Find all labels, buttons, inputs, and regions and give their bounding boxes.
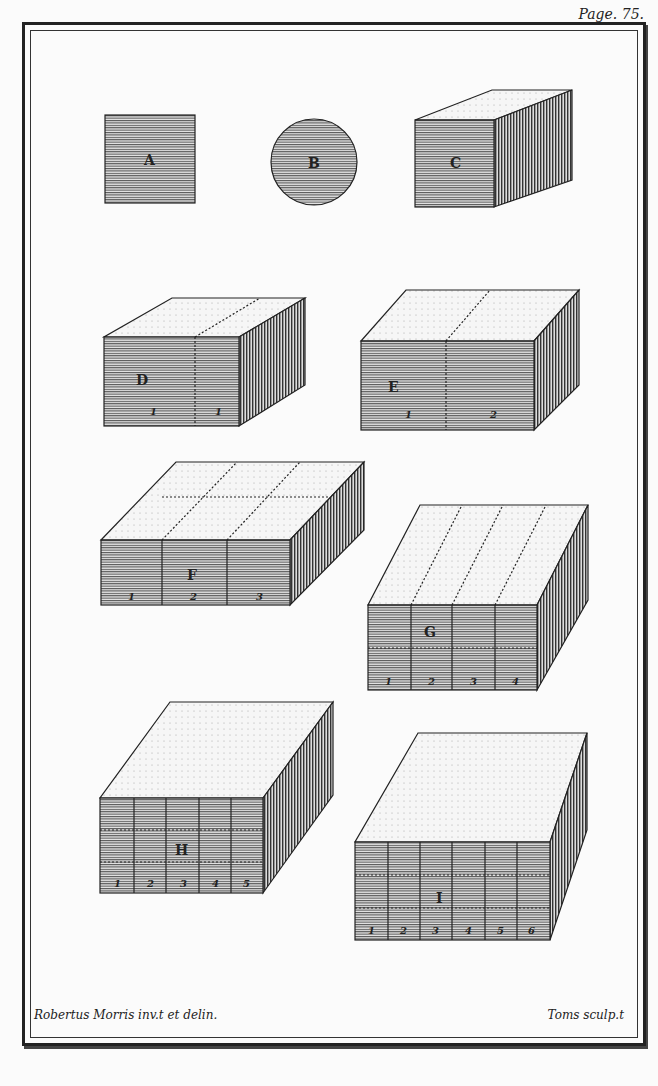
svg-text:1: 1 xyxy=(150,406,157,417)
svg-text:1: 1 xyxy=(215,406,222,417)
figure-g: G 1 2 3 4 xyxy=(368,505,588,690)
svg-text:6: 6 xyxy=(528,925,535,936)
svg-text:2: 2 xyxy=(399,925,407,936)
figure-f: F 1 2 3 xyxy=(101,462,364,605)
svg-text:2: 2 xyxy=(427,676,435,687)
svg-text:A: A xyxy=(143,152,156,168)
svg-text:5: 5 xyxy=(243,878,250,889)
svg-text:2: 2 xyxy=(189,591,197,602)
svg-text:4: 4 xyxy=(212,878,219,889)
figure-h: H 1 2 3 4 5 xyxy=(100,702,333,893)
svg-text:1: 1 xyxy=(385,676,392,687)
svg-text:F: F xyxy=(187,567,197,583)
svg-text:B: B xyxy=(308,155,320,171)
svg-text:2: 2 xyxy=(489,409,497,420)
svg-text:C: C xyxy=(450,155,461,171)
figure-i: I 1 2 3 4 5 6 xyxy=(355,733,587,940)
svg-text:4: 4 xyxy=(512,676,519,687)
figure-a: A xyxy=(105,115,195,203)
svg-text:1: 1 xyxy=(128,591,135,602)
svg-text:H: H xyxy=(175,842,188,858)
figure-e: E 1 2 xyxy=(361,290,579,430)
credit-designer: Robertus Morris inv.t et delin. xyxy=(34,1008,217,1022)
figure-c: C xyxy=(415,90,572,207)
figure-d: D 1 1 xyxy=(104,298,305,426)
svg-text:1: 1 xyxy=(405,409,412,420)
svg-text:3: 3 xyxy=(470,676,477,687)
plate-illustration: A B C D 1 1 xyxy=(0,0,658,1086)
svg-text:G: G xyxy=(424,624,436,640)
svg-text:4: 4 xyxy=(465,925,472,936)
svg-text:3: 3 xyxy=(256,591,263,602)
figure-b: B xyxy=(271,119,357,205)
svg-text:1: 1 xyxy=(368,925,375,936)
svg-text:1: 1 xyxy=(114,878,121,889)
svg-text:E: E xyxy=(388,379,399,395)
svg-text:3: 3 xyxy=(180,878,187,889)
svg-text:2: 2 xyxy=(146,878,154,889)
svg-text:I: I xyxy=(436,890,443,906)
svg-text:D: D xyxy=(136,372,148,388)
svg-text:5: 5 xyxy=(497,925,504,936)
svg-text:3: 3 xyxy=(432,925,439,936)
credit-engraver: Toms sculp.t xyxy=(548,1008,624,1022)
